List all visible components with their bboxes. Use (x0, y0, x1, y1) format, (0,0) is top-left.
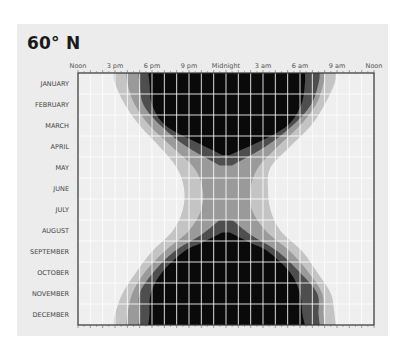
daylight-chart (0, 0, 407, 350)
